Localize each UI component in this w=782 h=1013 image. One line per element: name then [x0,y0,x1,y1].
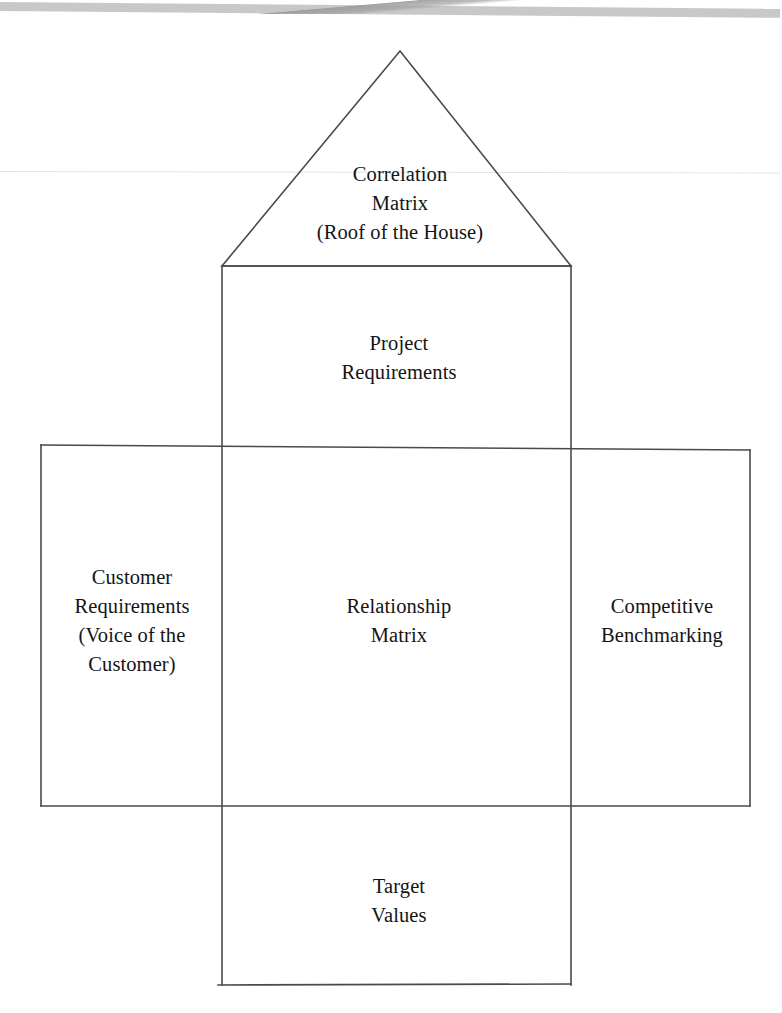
house-of-quality-geometry [0,0,782,1013]
left-label-customer-requirements: Customer Requirements (Voice of the Cust… [44,563,220,679]
bottom-center-label-target-values: Target Values [240,872,558,930]
center-label-relationship-matrix: Relationship Matrix [240,592,558,650]
house-of-quality-diagram: Correlation Matrix (Roof of the House) P… [0,0,782,1013]
top-center-label-project-requirements: Project Requirements [240,329,558,387]
roof-label-correlation-matrix: Correlation Matrix (Roof of the House) [240,160,560,247]
center-column-bottom-edge [218,984,571,985]
right-label-competitive-benchmarking: Competitive Benchmarking [576,592,748,650]
side-band-top-edge [41,445,750,450]
